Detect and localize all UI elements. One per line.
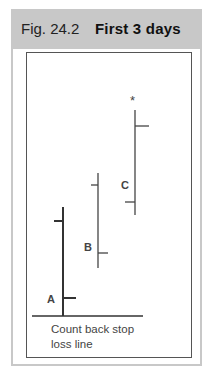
label-c: C bbox=[121, 179, 129, 191]
stop-loss-caption: Count back stop loss line bbox=[51, 322, 134, 352]
star-marker-icon: * bbox=[130, 93, 135, 108]
bar-a bbox=[54, 207, 76, 316]
label-a: A bbox=[47, 293, 55, 305]
label-b: B bbox=[84, 241, 92, 253]
bar-c bbox=[125, 110, 149, 215]
caption-line-1: Count back stop bbox=[51, 322, 134, 337]
caption-line-2: loss line bbox=[51, 337, 134, 352]
bar-b bbox=[91, 173, 108, 268]
